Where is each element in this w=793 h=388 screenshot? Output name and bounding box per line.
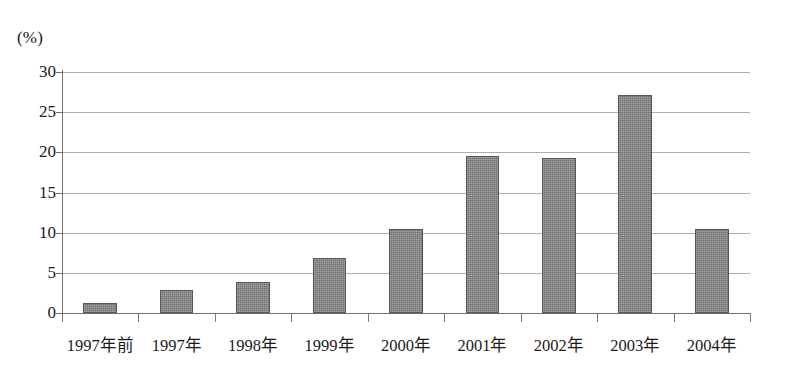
x-axis-category-label: 2000年 xyxy=(368,336,444,356)
x-tick-mark xyxy=(291,313,292,322)
y-tick-mark-30 xyxy=(56,72,63,73)
bar xyxy=(466,156,500,313)
bar-slot xyxy=(215,72,291,313)
x-axis-category-label: 1997年前 xyxy=(62,336,138,356)
y-tick-label: 5 xyxy=(16,264,56,281)
x-tick-mark xyxy=(444,313,445,322)
bar-slot xyxy=(291,72,367,313)
bar xyxy=(313,258,347,313)
y-tick-mark-10 xyxy=(56,233,63,234)
y-tick-label: 0 xyxy=(16,304,56,321)
bar-slot xyxy=(444,72,520,313)
bar xyxy=(618,95,652,314)
x-axis-category-label: 2002年 xyxy=(521,336,597,356)
bar-slot xyxy=(674,72,750,313)
y-tick-label: 25 xyxy=(16,103,56,120)
bar-slot xyxy=(521,72,597,313)
y-tick-label: 20 xyxy=(16,143,56,160)
x-axis-category-label: 1998年 xyxy=(215,336,291,356)
y-tick-label: 15 xyxy=(16,184,56,201)
y-tick-mark-5 xyxy=(56,273,63,274)
bar xyxy=(83,303,117,313)
x-tick-mark xyxy=(597,313,598,322)
x-tick-mark xyxy=(62,313,63,322)
y-tick-mark-25 xyxy=(56,112,63,113)
bar-chart-figure: (%) 1997年前1997年1998年1999年2000年2001年2002年… xyxy=(0,0,793,388)
y-tick-mark-20 xyxy=(56,152,63,153)
x-tick-mark xyxy=(138,313,139,322)
x-axis-category-label: 2004年 xyxy=(674,336,750,356)
bar-slot xyxy=(62,72,138,313)
x-axis-category-label: 1997年 xyxy=(138,336,214,356)
x-axis-ticks xyxy=(62,313,750,322)
bar xyxy=(160,290,194,313)
bar xyxy=(236,282,270,313)
x-axis-category-label: 1999年 xyxy=(291,336,367,356)
x-tick-mark xyxy=(674,313,675,322)
x-axis-category-label: 2003年 xyxy=(597,336,673,356)
bars-layer xyxy=(62,72,750,313)
bar xyxy=(389,229,423,313)
y-tick-label: 10 xyxy=(16,224,56,241)
x-tick-mark xyxy=(750,313,751,322)
bar-slot xyxy=(368,72,444,313)
bar xyxy=(542,158,576,313)
x-axis-labels: 1997年前1997年1998年1999年2000年2001年2002年2003… xyxy=(62,336,750,356)
y-tick-mark-0 xyxy=(56,313,63,314)
x-tick-mark xyxy=(215,313,216,322)
x-tick-mark xyxy=(521,313,522,322)
bar-slot xyxy=(138,72,214,313)
y-tick-label: 30 xyxy=(16,63,56,80)
bar xyxy=(695,229,729,313)
y-tick-mark-15 xyxy=(56,193,63,194)
x-tick-mark xyxy=(368,313,369,322)
x-axis-category-label: 2001年 xyxy=(444,336,520,356)
bar-slot xyxy=(597,72,673,313)
y-axis-unit-label: (%) xyxy=(17,28,43,48)
